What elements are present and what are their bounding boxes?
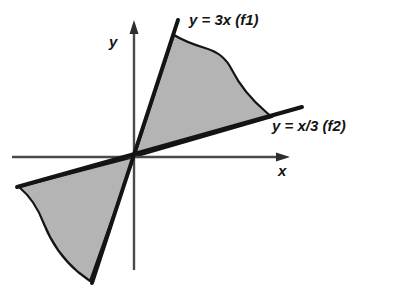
label-f2: y = x/3 (f2): [272, 118, 346, 133]
math-figure: y = 3x (f1) y = x/3 (f2) y x: [0, 0, 394, 291]
y-axis-arrow-icon: [130, 20, 139, 34]
x-axis-label: x: [278, 163, 286, 178]
label-f1: y = 3x (f1): [189, 12, 259, 27]
shaded-region-lower: [19, 157, 134, 281]
x-axis-arrow-icon: [276, 152, 290, 161]
plot-canvas: [0, 0, 394, 291]
y-axis-label: y: [109, 34, 117, 49]
